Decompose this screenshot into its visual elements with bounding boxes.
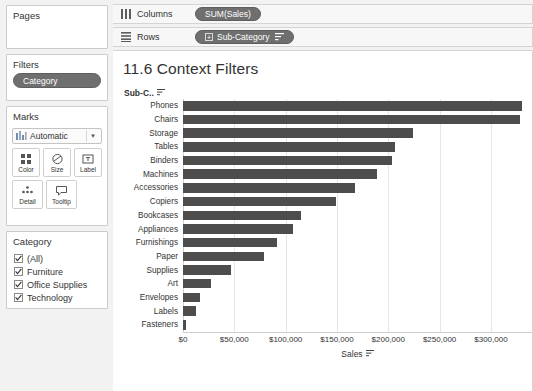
bar-mark[interactable] <box>183 306 196 316</box>
bar-track <box>183 291 532 305</box>
bar-row-label[interactable]: Appliances <box>113 225 183 234</box>
marks-color-label: Color <box>18 166 34 173</box>
bar-track <box>183 167 532 181</box>
marks-buttons-row-2: Detail Tooltip <box>12 180 102 209</box>
bar-row: Storage <box>113 126 532 140</box>
checkbox-icon[interactable] <box>14 280 23 289</box>
checkbox-icon[interactable] <box>14 293 23 302</box>
bar-row-label[interactable]: Tables <box>113 142 183 151</box>
bar-mark[interactable] <box>183 211 301 221</box>
bar-track <box>183 222 532 236</box>
bar-mark[interactable] <box>183 142 395 152</box>
bar-mark[interactable] <box>183 293 200 303</box>
filters-card[interactable]: Filters Category <box>6 54 108 101</box>
bar-mark[interactable] <box>183 128 413 138</box>
category-filter-label: (All) <box>27 254 43 264</box>
bar-mark[interactable] <box>183 197 336 207</box>
category-filter-label: Technology <box>27 293 73 303</box>
bar-row-label[interactable]: Machines <box>113 170 183 179</box>
chart-view: 11.6 Context Filters Sub-C.. PhonesChair… <box>113 50 533 391</box>
bar-row-label[interactable]: Furnishings <box>113 238 183 247</box>
bar-track <box>183 263 532 277</box>
bar-row: Machines <box>113 167 532 181</box>
bar-track <box>183 277 532 291</box>
bar-row-label[interactable]: Paper <box>113 252 183 261</box>
bar-mark[interactable] <box>183 101 522 111</box>
bar-row-label[interactable]: Binders <box>113 156 183 165</box>
bar-row: Chairs <box>113 113 532 127</box>
size-icon <box>51 152 64 165</box>
bar-row-label[interactable]: Supplies <box>113 266 183 275</box>
x-axis-tick-label: $300,000 <box>474 335 507 344</box>
bar-mark[interactable] <box>183 115 520 125</box>
bar-row-label[interactable]: Fasteners <box>113 320 183 329</box>
bar-mark[interactable] <box>183 238 277 248</box>
marks-label-button[interactable]: Label <box>74 148 102 177</box>
filters-pill-shelf[interactable]: Category <box>7 73 107 94</box>
bar-row-label[interactable]: Art <box>113 279 183 288</box>
bar-mark[interactable] <box>183 320 186 330</box>
marks-detail-button[interactable]: Detail <box>12 180 43 209</box>
bar-mark[interactable] <box>183 169 377 179</box>
bar-track <box>183 113 532 127</box>
x-axis-title[interactable]: Sales <box>183 349 532 359</box>
mark-type-dropdown[interactable]: Automatic ▼ <box>12 128 102 144</box>
category-filter-label: Furniture <box>27 267 63 277</box>
bar-mark[interactable] <box>183 252 264 262</box>
rows-shelf-label: Rows <box>137 32 189 42</box>
category-filter-item-office-supplies[interactable]: Office Supplies <box>14 278 101 291</box>
expand-plus-icon[interactable]: + <box>205 33 213 41</box>
pages-card-title: Pages <box>7 6 107 24</box>
bar-row-label[interactable]: Phones <box>113 101 183 110</box>
bar-mark[interactable] <box>183 224 293 234</box>
sort-descending-icon[interactable] <box>275 33 284 41</box>
chevron-down-icon[interactable]: ▼ <box>86 130 99 142</box>
checkbox-icon[interactable] <box>14 254 23 263</box>
columns-pill-sum-sales[interactable]: SUM(Sales) <box>195 7 261 21</box>
marks-color-button[interactable]: Color <box>12 148 40 177</box>
bar-row: Phones <box>113 99 532 113</box>
bar-row-label[interactable]: Storage <box>113 129 183 138</box>
x-axis-tick-label: $250,000 <box>423 335 456 344</box>
left-sidebar: Pages Filters Category Marks Automatic ▼ <box>0 0 113 391</box>
sort-descending-icon[interactable] <box>157 88 165 98</box>
bar-mark[interactable] <box>183 183 355 193</box>
marks-size-button[interactable]: Size <box>43 148 71 177</box>
bar-row: Fasteners <box>113 318 532 332</box>
columns-shelf[interactable]: Columns SUM(Sales) <box>113 4 533 24</box>
bar-mark[interactable] <box>183 279 211 289</box>
bar-chart: PhonesChairsStorageTablesBindersMachines… <box>113 99 532 391</box>
bar-mark[interactable] <box>183 156 392 166</box>
bar-row-label[interactable]: Envelopes <box>113 293 183 302</box>
rows-pill-label: Sub-Category <box>217 32 269 42</box>
bar-row-label[interactable]: Labels <box>113 307 183 316</box>
bar-row-label[interactable]: Chairs <box>113 115 183 124</box>
bar-track <box>183 126 532 140</box>
x-axis-tick-label: $100,000 <box>269 335 302 344</box>
bar-row-label[interactable]: Bookcases <box>113 211 183 220</box>
bar-track <box>183 154 532 168</box>
bar-row-label[interactable]: Copiers <box>113 197 183 206</box>
rows-shelf[interactable]: Rows + Sub-Category <box>113 27 533 47</box>
bar-mark[interactable] <box>183 265 231 275</box>
row-field-header[interactable]: Sub-C.. <box>124 88 165 98</box>
bar-track <box>183 195 532 209</box>
checkbox-icon[interactable] <box>14 267 23 276</box>
category-filter-item-technology[interactable]: Technology <box>14 291 101 304</box>
columns-icon <box>120 9 131 20</box>
marks-detail-label: Detail <box>19 198 36 205</box>
bar-row-label[interactable]: Accessories <box>113 183 183 192</box>
category-filter-item-all[interactable]: (All) <box>14 252 101 265</box>
bar-row: Tables <box>113 140 532 154</box>
marks-tooltip-button[interactable]: Tooltip <box>46 180 77 209</box>
category-filter-item-furniture[interactable]: Furniture <box>14 265 101 278</box>
sort-descending-icon[interactable] <box>366 349 374 359</box>
bar-row: Copiers <box>113 195 532 209</box>
bar-row: Paper <box>113 250 532 264</box>
tableau-worksheet: Pages Filters Category Marks Automatic ▼ <box>0 0 533 391</box>
x-axis-title-label: Sales <box>341 349 362 359</box>
filter-pill-category[interactable]: Category <box>13 73 101 88</box>
rows-pill-sub-category[interactable]: + Sub-Category <box>195 30 294 44</box>
columns-pill-label: SUM(Sales) <box>205 9 251 19</box>
bar-track <box>183 250 532 264</box>
